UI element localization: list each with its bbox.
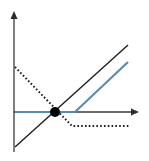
payoff-diagram	[0, 0, 149, 161]
intersection-point	[50, 107, 60, 117]
diagonal-line	[15, 45, 128, 147]
y-axis-arrow-icon	[11, 11, 18, 19]
blue-kinked-line	[15, 62, 128, 112]
y-axis	[11, 11, 18, 152]
x-axis-arrow-icon	[131, 109, 139, 116]
